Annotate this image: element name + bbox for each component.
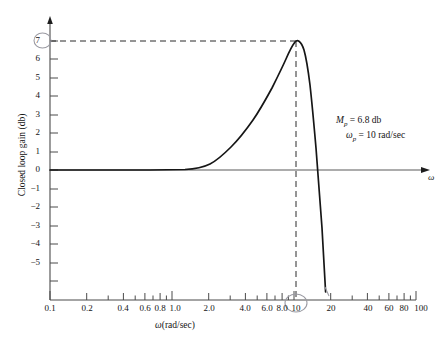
y-tick-marks xyxy=(50,41,58,281)
omega-axis-arrow-label: ω xyxy=(428,172,434,182)
y-tick-label-7: 7 xyxy=(26,36,40,45)
x-tick-label-0-4: 0.4 xyxy=(111,304,135,313)
y-tick-label-3: 3 xyxy=(26,110,40,119)
y-tick-label-1: 1 xyxy=(26,147,40,156)
annotation-wp-subscript: p xyxy=(353,135,357,143)
annotation-wp-symbol: ω xyxy=(346,130,353,140)
y-tick-label-minus5: −5 xyxy=(22,258,40,267)
x-tick-label-1-0: 1.0 xyxy=(163,304,187,313)
y-axis-arrowhead xyxy=(47,16,53,24)
peak-annotation: Mp = 6.8 db ωp = 10 rad/sec xyxy=(336,114,405,144)
closed-loop-gain-curve xyxy=(50,41,326,292)
annotation-mp-symbol: M xyxy=(336,115,344,125)
y-axis-title: Closed loop gain (db) xyxy=(17,85,27,225)
x-tick-label-20: 20 xyxy=(319,304,343,313)
frequency-response-figure: 7 6 5 4 3 2 1 0 −1 −2 −3 −4 −5 0.1 0.2 0… xyxy=(0,0,447,342)
y-tick-label-2: 2 xyxy=(26,128,40,137)
x-tick-label-4-0: 4.0 xyxy=(233,304,257,313)
plot-canvas xyxy=(0,0,447,342)
annotation-wp-value: = 10 rad/sec xyxy=(359,130,406,140)
annotation-mp-line: Mp = 6.8 db xyxy=(336,114,405,129)
y-tick-label-4: 4 xyxy=(26,91,40,100)
x-axis-title: ω(rad/sec) xyxy=(155,320,195,330)
x-tick-label-100: 100 xyxy=(407,304,435,313)
x-tick-label-0-1: 0.1 xyxy=(38,304,62,313)
x-tick-marks-major xyxy=(50,291,416,300)
x-tick-label-10: 10 xyxy=(286,304,306,313)
x-tick-label-2-0: 2.0 xyxy=(197,304,221,313)
annotation-mp-value: = 6.8 db xyxy=(350,115,381,125)
annotation-mp-subscript: p xyxy=(344,120,348,128)
annotation-wp-line: ωp = 10 rad/sec xyxy=(336,129,405,144)
y-tick-label-6: 6 xyxy=(26,54,40,63)
x-axis-title-omega: ω xyxy=(155,320,162,330)
x-axis-title-units: (rad/sec) xyxy=(162,320,195,330)
y-tick-label-5: 5 xyxy=(26,73,40,82)
x-tick-label-0-2: 0.2 xyxy=(75,304,99,313)
y-tick-label-minus4: −4 xyxy=(22,239,40,248)
y-tick-label-0: 0 xyxy=(26,165,40,174)
